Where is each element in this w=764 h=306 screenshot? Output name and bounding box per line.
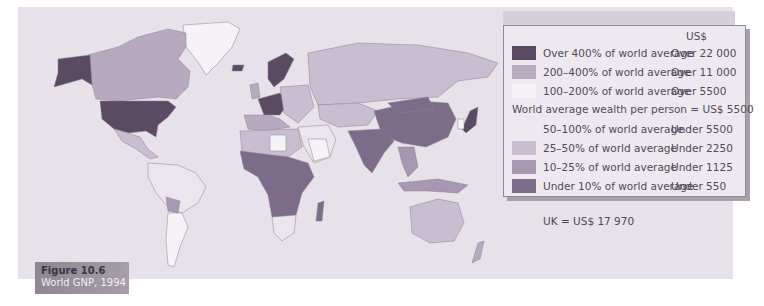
figure-caption: Figure 10.6 World GNP, 1994 <box>35 262 129 294</box>
legend-currency-header: US$ <box>512 30 737 43</box>
legend-row-50-100: 50–100% of world average Under 5500 <box>512 119 737 138</box>
region-madagascar <box>316 201 324 221</box>
region-eastern-europe <box>280 85 314 123</box>
region-southern-europe <box>244 115 290 131</box>
legend-value: Under 5500 <box>671 123 733 135</box>
region-southeast-asia <box>398 147 418 177</box>
legend-row-over-400: Over 400% of world average Over 22 000 <box>512 43 737 62</box>
map-legend: US$ Over 400% of world average Over 22 0… <box>503 25 746 197</box>
legend-label: 200–400% of world average <box>543 66 667 78</box>
legend-swatch <box>512 46 536 60</box>
legend-swatch <box>512 65 536 79</box>
legend-value: Under 1125 <box>671 161 733 173</box>
legend-value: Under 2250 <box>671 142 733 154</box>
legend-label: 100–200% of world average <box>543 85 667 97</box>
region-argentina <box>166 213 188 267</box>
legend-label: Under 10% of world average <box>543 180 667 192</box>
legend-value: Under 550 <box>671 180 726 192</box>
region-indonesia <box>398 179 468 193</box>
legend-swatch <box>512 84 536 98</box>
uk-gnp-note: UK = US$ 17 970 <box>543 215 634 227</box>
legend-row-100-200: 100–200% of world average Over 5500 <box>512 81 737 100</box>
legend-value: Over 5500 <box>671 85 726 97</box>
legend-label: 10–25% of world average <box>543 161 667 173</box>
region-korea <box>458 119 464 129</box>
region-south-asia <box>348 129 394 173</box>
region-canada <box>88 29 190 101</box>
legend-label: 25–50% of world average <box>543 142 667 154</box>
region-usa <box>100 101 176 137</box>
legend-average-note: World average wealth per person = US$ 55… <box>512 100 737 119</box>
legend-row-10-25: 10–25% of world average Under 1125 <box>512 157 737 176</box>
legend-swatch <box>512 179 536 193</box>
region-central-asia <box>318 103 378 127</box>
legend-label: Over 400% of world average <box>543 47 667 59</box>
legend-row-200-400: 200–400% of world average Over 11 000 <box>512 62 737 81</box>
region-libya <box>270 135 286 151</box>
legend-swatch <box>512 160 536 174</box>
region-sub-saharan-africa <box>240 151 314 227</box>
region-alaska <box>54 55 92 87</box>
figure-title: World GNP, 1994 <box>41 277 129 289</box>
region-iceland <box>232 65 244 71</box>
legend-value: Over 22 000 <box>671 47 736 59</box>
region-scandinavia <box>268 53 294 87</box>
legend-row-under-10: Under 10% of world average Under 550 <box>512 176 737 195</box>
legend-swatch <box>512 141 536 155</box>
region-uk <box>250 83 260 99</box>
legend-header-band <box>503 11 735 25</box>
region-australia <box>410 199 464 243</box>
figure-number: Figure 10.6 <box>41 265 129 277</box>
legend-swatch <box>512 122 536 136</box>
region-new-zealand <box>472 241 484 263</box>
legend-row-25-50: 25–50% of world average Under 2250 <box>512 138 737 157</box>
region-japan <box>462 107 478 133</box>
legend-value: Over 11 000 <box>671 66 736 78</box>
legend-label: 50–100% of world average <box>543 123 667 135</box>
region-russia <box>308 43 498 105</box>
region-south-africa <box>272 215 296 241</box>
region-greenland <box>183 22 240 75</box>
